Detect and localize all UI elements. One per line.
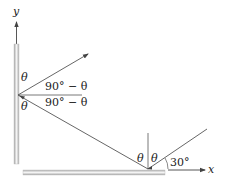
- y-axis-label: y: [12, 5, 20, 18]
- angle-30-arc: [165, 158, 168, 169]
- theta-label-bottom-right: θ: [151, 152, 158, 165]
- complement-label-lower: 90° − θ: [45, 96, 88, 109]
- angle-30-label: 30°: [170, 156, 190, 169]
- theta-label-lower-left: θ: [21, 100, 28, 113]
- vertical-mirror: [14, 44, 19, 164]
- mirror-reflection-diagram: y x θ 90° − θ 90° − θ θ θ θ 30°: [0, 0, 225, 187]
- y-axis: y: [12, 5, 20, 44]
- theta-label-upper-left: θ: [21, 71, 28, 84]
- x-axis-label: x: [208, 163, 215, 176]
- complement-label-upper: 90° − θ: [45, 80, 88, 93]
- horizontal-mirror: [23, 170, 165, 175]
- theta-label-bottom-left: θ: [137, 152, 144, 165]
